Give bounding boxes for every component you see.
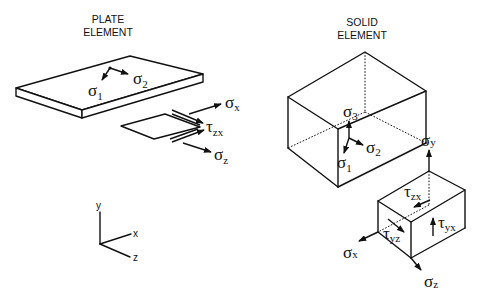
plate-sigmaz-label: σz (214, 145, 228, 166)
solid-element: SOLID ELEMENT σ3 σ2 σ1 σy (288, 16, 465, 291)
solid-sigmax-label: σx (343, 243, 358, 262)
solid-sigmaz-arrow (411, 258, 421, 270)
box-edge-bottom-left (288, 148, 338, 187)
y-axis-label: y (96, 200, 101, 211)
solid-sigma1-label: σ1 (337, 153, 352, 174)
sigmay-label: σy (421, 131, 436, 150)
solid-title-line2: ELEMENT (337, 29, 387, 41)
z-axis-label: z (133, 252, 138, 263)
plate-tauzx-label: τzx (206, 117, 224, 138)
solid-sigma1-arrow (344, 138, 349, 153)
stress-element-diagram: PLATE ELEMENT σ1 σ2 σx τzx σz y x z (0, 0, 477, 299)
solid-sigmaz-label: σz (424, 272, 438, 291)
sigma3-label: σ3 (343, 102, 358, 122)
x-axis-label: x (133, 228, 138, 239)
plate-sigmaz-arrow (183, 143, 211, 152)
tauyz-arrow (388, 219, 404, 232)
solid-sigma2-label: σ2 (366, 138, 381, 158)
x-axis-line (100, 234, 131, 244)
solid-sigma2-arrow (349, 138, 363, 145)
solid-sigmax-arrow (359, 232, 378, 241)
solid-tauzx-label: τzx (404, 182, 422, 202)
plate-sigmax-arrow (189, 104, 221, 114)
plate-element: PLATE ELEMENT σ1 σ2 σx τzx σz (16, 13, 240, 166)
plate-sigmax-label: σx (225, 93, 240, 113)
z-axis-line (100, 244, 130, 257)
small-box-edge-bottom-right (411, 228, 465, 258)
small-box-top-face (378, 171, 465, 222)
solid-tauyx-label: τyx (438, 213, 456, 233)
solid-title-line1: SOLID (346, 16, 378, 28)
plate-title-line2: ELEMENT (83, 26, 133, 38)
plate-title-line1: PLATE (92, 13, 124, 25)
coordinate-axes: y x z (96, 200, 138, 263)
